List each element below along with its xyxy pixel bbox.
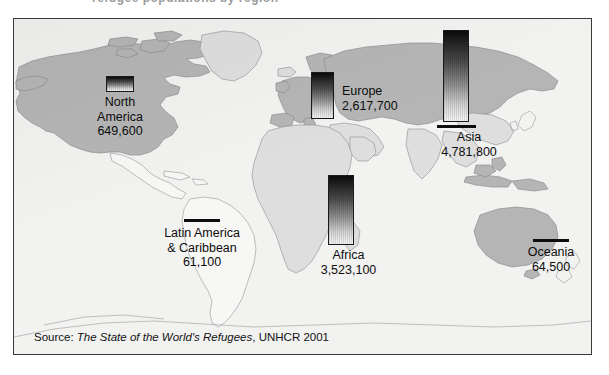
region-marker-oceania: Oceania 64,500	[501, 239, 592, 274]
region-name-north-america-line1: North	[105, 95, 136, 109]
clipped-title-text: refugee populations by region	[92, 0, 279, 5]
region-value-oceania: 64,500	[501, 260, 592, 275]
region-marker-africa: Africa 3,523,100	[292, 175, 405, 277]
region-value-africa: 3,523,100	[292, 263, 405, 278]
region-value-north-america: 649,600	[74, 124, 166, 139]
label-oceania: Oceania 64,500	[501, 245, 592, 274]
clipped-title-sliver: refugee populations by region	[0, 0, 609, 7]
region-name-latin-america-line1: Latin America	[164, 226, 240, 240]
label-north-america: North America 649,600	[74, 95, 166, 139]
region-name-latin-america-line2: & Caribbean	[167, 241, 237, 255]
source-prefix: Source:	[34, 331, 74, 343]
bar-europe	[311, 72, 334, 119]
region-value-latin-america: 61,100	[142, 255, 262, 270]
region-value-europe: 2,617,700	[342, 99, 398, 114]
label-latin-america: Latin America & Caribbean 61,100	[142, 226, 262, 270]
region-name-north-america-line2: America	[97, 110, 143, 124]
map-frame: .lm { fill:#b5b5b5; stroke:#8e8e8e; stro…	[13, 18, 592, 355]
region-name-europe: Europe	[342, 84, 382, 98]
region-name-africa: Africa	[333, 248, 365, 262]
label-europe: Europe 2,617,700	[342, 84, 398, 113]
bar-north-america	[106, 76, 134, 92]
source-line: Source: The State of the World's Refugee…	[34, 331, 329, 343]
region-marker-asia: Asia 4,781,800	[406, 30, 532, 159]
region-name-asia: Asia	[457, 130, 481, 144]
rule-oceania	[533, 239, 569, 242]
source-suffix: , UNHCR 2001	[252, 331, 329, 343]
region-marker-europe: Europe 2,617,700	[311, 72, 421, 119]
rule-latin-america	[184, 219, 220, 222]
label-asia: Asia 4,781,800	[406, 130, 532, 159]
refugee-map-figure: refugee populations by region .lm { fill…	[0, 0, 609, 375]
region-name-oceania: Oceania	[528, 245, 575, 259]
label-africa: Africa 3,523,100	[292, 248, 405, 277]
region-marker-latin-america: Latin America & Caribbean 61,100	[142, 219, 262, 270]
bar-africa	[328, 175, 354, 245]
region-value-asia: 4,781,800	[406, 145, 532, 160]
region-marker-north-america: North America 649,600	[74, 76, 166, 139]
source-title: The State of the World's Refugees	[77, 331, 252, 343]
rule-asia	[437, 125, 476, 128]
bar-asia	[443, 30, 469, 122]
